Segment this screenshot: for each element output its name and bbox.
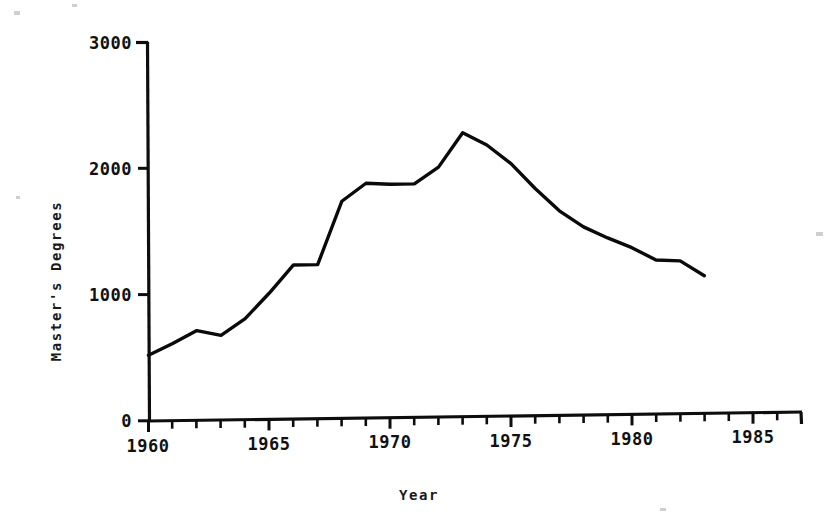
y-tick-label-3000: 3000 <box>89 33 132 53</box>
y-tick-label-1000: 1000 <box>89 285 132 305</box>
chart-figure: 0 1000 2000 3000 <box>0 0 838 532</box>
x-axis-tick-labels: 1960 1965 1970 1975 1980 1985 <box>127 427 775 456</box>
y-axis-tick-labels: 0 1000 2000 3000 <box>89 33 132 431</box>
x-tick-label-1965: 1965 <box>248 434 291 454</box>
x-axis-title: Year <box>399 487 439 503</box>
y-axis-line <box>148 42 150 421</box>
y-tick-label-2000: 2000 <box>89 159 132 179</box>
x-tick-label-1960: 1960 <box>127 436 170 456</box>
y-axis-title: Master's Degrees <box>48 201 64 361</box>
x-tick-label-1985: 1985 <box>732 427 775 447</box>
data-series-line <box>149 133 705 355</box>
line-chart-svg: 0 1000 2000 3000 <box>0 0 838 532</box>
x-tick-label-1980: 1980 <box>611 429 654 449</box>
scan-artifacts <box>14 4 823 511</box>
y-tick-label-0: 0 <box>121 411 132 431</box>
x-tick-label-1975: 1975 <box>490 431 533 451</box>
x-axis-right-cap <box>801 412 802 424</box>
x-tick-label-1970: 1970 <box>369 432 412 452</box>
